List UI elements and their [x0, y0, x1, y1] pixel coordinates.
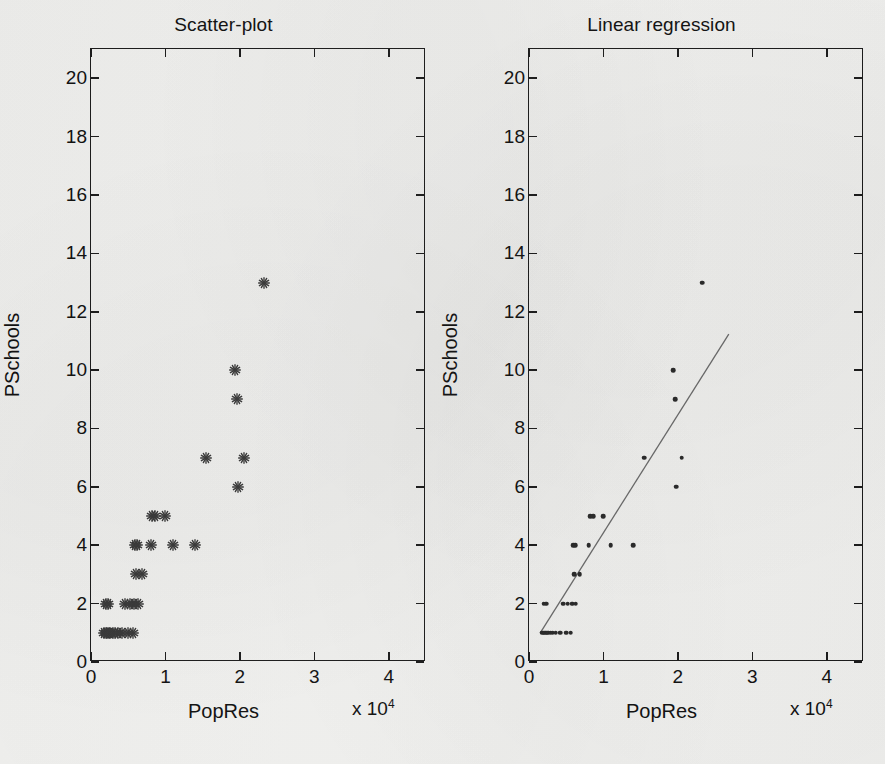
y-tick-label: 0 — [41, 651, 87, 673]
x-tick — [90, 49, 92, 57]
data-point-marker — [131, 539, 144, 552]
exponent-power-right: 4 — [826, 697, 833, 711]
x-tick-label: 2 — [235, 666, 246, 688]
data-point-marker — [200, 451, 213, 464]
y-tick-label: 8 — [41, 417, 87, 439]
data-point-marker — [146, 510, 159, 523]
y-tick-label: 14 — [479, 242, 525, 264]
data-point-marker — [128, 597, 141, 610]
data-point-marker — [99, 597, 112, 610]
data-point-marker — [126, 626, 139, 639]
panel-title-left: Scatter-plot — [0, 14, 447, 36]
exponent-power-left: 4 — [388, 697, 395, 711]
data-point-marker — [111, 626, 124, 639]
x-tick-label: 2 — [673, 666, 684, 688]
y-tick — [416, 661, 424, 663]
y-tick-label: 6 — [41, 476, 87, 498]
x-axis-exponent-right: x 104 — [790, 697, 833, 720]
data-point-marker — [102, 626, 115, 639]
y-tick-label: 4 — [41, 534, 87, 556]
x-tick — [314, 49, 316, 57]
x-tick — [165, 652, 167, 660]
y-tick — [91, 428, 99, 430]
x-tick-label: 3 — [309, 666, 320, 688]
data-point-marker — [144, 539, 157, 552]
y-tick-label: 16 — [41, 184, 87, 206]
y-tick-label: 4 — [479, 534, 525, 556]
y-tick-label: 20 — [41, 67, 87, 89]
data-point-marker — [131, 597, 144, 610]
data-point-marker — [123, 597, 136, 610]
regression-line — [529, 49, 862, 660]
data-point-marker — [119, 597, 132, 610]
y-axis-title-left: PSchools — [1, 313, 24, 398]
x-tick — [388, 652, 390, 660]
y-tick-label: 12 — [479, 301, 525, 323]
x-tick — [314, 652, 316, 660]
data-point-marker — [237, 451, 250, 464]
y-tick — [416, 428, 424, 430]
y-tick-label: 18 — [41, 126, 87, 148]
x-tick-label: 4 — [383, 666, 394, 688]
y-tick — [416, 194, 424, 196]
y-tick-label: 10 — [479, 359, 525, 381]
y-tick — [416, 77, 424, 79]
y-tick-label: 12 — [41, 301, 87, 323]
y-axis-title-right: PSchools — [439, 313, 462, 398]
y-tick-label: 20 — [479, 67, 525, 89]
panel-title-right: Linear regression — [438, 14, 885, 36]
data-point-marker — [189, 539, 202, 552]
y-tick — [416, 486, 424, 488]
panel-linear-regression: Linear regression PSchools PopRes x 104 … — [438, 0, 885, 764]
y-tick — [91, 253, 99, 255]
data-point-marker — [122, 626, 135, 639]
data-point-marker — [258, 276, 271, 289]
data-point-marker — [166, 539, 179, 552]
x-tick — [239, 652, 241, 660]
plot-area-left: 0246810121416182001234 — [90, 48, 425, 661]
y-tick — [416, 253, 424, 255]
y-tick — [91, 544, 99, 546]
y-tick-label: 16 — [479, 184, 525, 206]
data-point-marker — [102, 597, 115, 610]
y-tick-label: 10 — [41, 359, 87, 381]
data-point-marker — [99, 626, 112, 639]
y-tick — [416, 544, 424, 546]
y-tick-label: 8 — [479, 417, 525, 439]
y-tick-label: 6 — [479, 476, 525, 498]
panel-scatter-plot: Scatter-plot PSchools PopRes x 104 02468… — [0, 0, 447, 764]
data-point-marker — [130, 568, 143, 581]
x-tick-label: 4 — [821, 666, 832, 688]
y-tick — [91, 369, 99, 371]
y-tick — [416, 136, 424, 138]
figure-canvas: Scatter-plot PSchools PopRes x 104 02468… — [0, 0, 885, 764]
plot-inner-left: 0246810121416182001234 — [91, 49, 424, 660]
x-tick-label: 0 — [524, 666, 535, 688]
x-axis-exponent-left: x 104 — [352, 697, 395, 720]
data-point-marker — [106, 626, 119, 639]
data-point-marker — [116, 626, 129, 639]
x-tick-label: 1 — [160, 666, 171, 688]
x-tick-label: 1 — [598, 666, 609, 688]
y-tick — [91, 661, 99, 663]
y-tick-label: 14 — [41, 242, 87, 264]
y-tick — [416, 369, 424, 371]
data-point-marker — [101, 626, 114, 639]
data-point-marker — [108, 626, 121, 639]
y-tick — [416, 311, 424, 313]
data-point-marker — [135, 568, 148, 581]
y-tick — [91, 194, 99, 196]
data-point-marker — [128, 539, 141, 552]
exponent-base-left: x 10 — [352, 698, 388, 719]
y-tick — [91, 77, 99, 79]
data-point-marker — [149, 510, 162, 523]
y-tick-label: 18 — [479, 126, 525, 148]
data-point-marker — [159, 510, 172, 523]
plot-inner-right: 0246810121416182001234 — [529, 49, 862, 660]
data-point-marker — [229, 364, 242, 377]
y-tick — [91, 136, 99, 138]
y-tick — [91, 486, 99, 488]
y-tick — [91, 603, 99, 605]
data-point-marker — [98, 626, 111, 639]
data-point-marker — [232, 480, 245, 493]
